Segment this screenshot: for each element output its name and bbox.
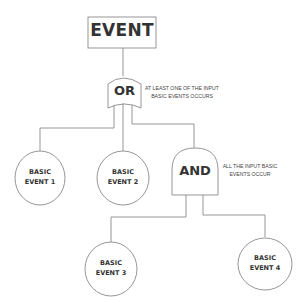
basic-event-4-line-2: EVENT 4 — [238, 264, 292, 274]
top-event-label: EVENT — [88, 21, 156, 41]
basic-event-2-line-2: EVENT 2 — [97, 178, 149, 188]
and-gate-description-line-2: EVENTS OCCUR — [219, 171, 281, 179]
basic-event-3-line-1: BASIC — [85, 259, 137, 269]
or-gate-label: OR — [108, 84, 141, 99]
basic-event-3-label: BASIC EVENT 3 — [85, 259, 137, 279]
or-gate-description: AT LEAST ONE OF THE INPUT BASIC EVENTS O… — [144, 85, 220, 100]
basic-event-4-label: BASIC EVENT 4 — [238, 254, 292, 274]
and-gate-label: AND — [172, 164, 218, 179]
and-gate-description-line-1: ALL THE INPUT BASIC — [219, 163, 281, 171]
basic-event-4-line-1: BASIC — [238, 254, 292, 264]
connector-and-basic-4 — [203, 195, 265, 237]
or-gate-description-line-1: AT LEAST ONE OF THE INPUT — [144, 85, 220, 93]
and-gate-description: ALL THE INPUT BASIC EVENTS OCCUR — [219, 163, 281, 178]
basic-event-2-label: BASIC EVENT 2 — [97, 168, 149, 188]
basic-event-1-label: BASIC EVENT 1 — [15, 168, 65, 188]
connector-or-basic-1 — [40, 105, 114, 152]
basic-event-3-line-2: EVENT 3 — [85, 269, 137, 279]
basic-event-1-line-1: BASIC — [15, 168, 65, 178]
basic-event-2-line-1: BASIC — [97, 168, 149, 178]
or-gate-description-line-2: BASIC EVENTS OCCURS — [144, 93, 220, 101]
connector-or-and — [132, 105, 194, 148]
basic-event-1-line-2: EVENT 1 — [15, 178, 65, 188]
